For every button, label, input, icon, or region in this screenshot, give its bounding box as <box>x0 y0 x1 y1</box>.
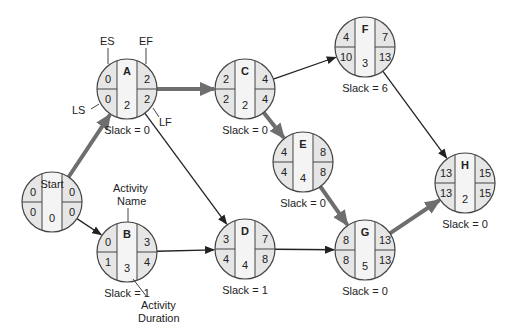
activity-name: C <box>241 65 249 77</box>
early-start: 4 <box>281 146 287 158</box>
activity-name: H <box>461 159 469 171</box>
early-start: 0 <box>105 73 111 85</box>
early-finish: 0 <box>69 186 75 198</box>
early-start: 13 <box>440 167 452 179</box>
slack-label: Slack = 0 <box>280 197 326 209</box>
ls-label: LS <box>72 104 85 116</box>
early-start: 3 <box>223 233 229 245</box>
late-start: 8 <box>343 254 349 266</box>
activity-name: F <box>362 23 369 35</box>
late-start: 2 <box>223 93 229 105</box>
late-finish: 13 <box>379 254 391 266</box>
late-finish: 15 <box>479 187 491 199</box>
nodes-layer: Start00000A02022Slack = 0B03143Slack = 1… <box>22 17 495 299</box>
slack-label: Slack = 1 <box>222 284 268 296</box>
network-diagram: Start00000A02022Slack = 0B03143Slack = 1… <box>0 0 509 332</box>
node-d: D37484Slack = 1 <box>215 219 275 296</box>
activity-name: D <box>241 225 249 237</box>
late-start: 4 <box>223 253 229 265</box>
slack-label: Slack = 0 <box>104 124 150 136</box>
early-start: 0 <box>30 186 36 198</box>
node-e: E48484Slack = 0 <box>273 132 333 209</box>
edge-c-f <box>273 57 335 79</box>
node-f: F4710133Slack = 6 <box>335 17 395 94</box>
late-finish: 2 <box>144 93 150 105</box>
slack-label: Slack = 1 <box>104 287 150 299</box>
node-g: G8138135Slack = 0 <box>335 220 395 297</box>
late-start: 4 <box>281 166 287 178</box>
edge-b-d <box>157 250 214 251</box>
early-start: 4 <box>343 31 349 43</box>
lf-label: LF <box>159 116 172 128</box>
early-start: 8 <box>343 234 349 246</box>
activity-duration: 4 <box>300 172 306 184</box>
early-start: 0 <box>105 236 111 248</box>
edge-a-d <box>145 113 227 224</box>
early-finish: 8 <box>320 146 326 158</box>
early-finish: 7 <box>382 31 388 43</box>
node-start: Start00000 <box>22 172 82 232</box>
early-start: 2 <box>223 73 229 85</box>
late-finish: 4 <box>262 93 268 105</box>
ef-label: EF <box>139 35 153 47</box>
late-finish: 4 <box>144 256 150 268</box>
late-finish: 13 <box>379 51 391 63</box>
late-start: 0 <box>30 206 36 218</box>
activity-duration: 4 <box>242 259 248 271</box>
late-finish: 0 <box>69 206 75 218</box>
slack-label: Slack = 6 <box>342 82 388 94</box>
activity-duration-label-1: Activity <box>141 299 176 311</box>
early-finish: 7 <box>262 233 268 245</box>
slack-label: Slack = 0 <box>342 285 388 297</box>
slack-label: Slack = 0 <box>442 218 488 230</box>
late-start: 1 <box>105 256 111 268</box>
slack-label: Slack = 0 <box>222 124 268 136</box>
early-finish: 2 <box>144 73 150 85</box>
activity-name: G <box>361 226 370 238</box>
edge-g-h <box>390 200 439 233</box>
late-finish: 8 <box>262 253 268 265</box>
activity-name-label-2: Name <box>117 195 146 207</box>
activity-name: Start <box>40 178 63 190</box>
activity-name: E <box>299 138 306 150</box>
early-finish: 15 <box>479 167 491 179</box>
activity-name: A <box>123 65 131 77</box>
early-finish: 4 <box>262 73 268 85</box>
activity-duration: 0 <box>49 212 55 224</box>
activity-duration: 3 <box>124 262 130 274</box>
edge-f-h <box>383 71 447 158</box>
late-start: 10 <box>340 51 352 63</box>
activity-duration: 2 <box>462 193 468 205</box>
es-label: ES <box>100 35 115 47</box>
edge-start-b <box>77 219 101 235</box>
node-b: B03143Slack = 1 <box>97 222 157 299</box>
node-c: C24242Slack = 0 <box>215 59 275 136</box>
late-start: 0 <box>105 93 111 105</box>
activity-duration: 2 <box>242 99 248 111</box>
activity-name-label-1: Activity <box>113 182 148 194</box>
node-h: H131513152Slack = 0 <box>435 153 495 230</box>
late-finish: 8 <box>320 166 326 178</box>
late-start: 13 <box>440 187 452 199</box>
early-finish: 3 <box>144 236 150 248</box>
activity-name: B <box>123 228 131 240</box>
node-a: A02022Slack = 0 <box>97 59 157 136</box>
activity-duration: 5 <box>362 260 368 272</box>
activity-duration: 2 <box>124 99 130 111</box>
early-finish: 13 <box>379 234 391 246</box>
activity-duration: 3 <box>362 57 368 69</box>
activity-duration-label-2: Duration <box>138 312 180 324</box>
